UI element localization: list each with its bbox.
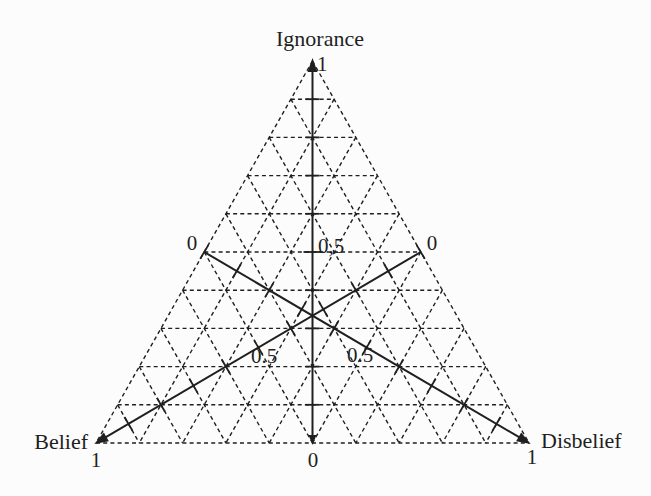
- belief-axis-label: Belief: [34, 429, 88, 454]
- opinion-triangle-figure: Ignorance 1 0,5 0 Belief 1 0.5 0 Disbeli…: [0, 0, 651, 496]
- belief-mid-tick-label: 0.5: [251, 344, 277, 368]
- disbelief-min-tick-label: 0: [187, 231, 198, 255]
- axes: [94, 58, 530, 445]
- belief-min-tick-label: 0: [427, 231, 438, 255]
- disbelief-max-tick-label: 1: [527, 445, 538, 469]
- disbelief-axis-label: Disbelief: [541, 428, 622, 453]
- disbelief-mid-tick-label: 0.5: [347, 343, 373, 367]
- ternary-plot-canvas: Ignorance 1 0,5 0 Belief 1 0.5 0 Disbeli…: [0, 0, 651, 496]
- ignorance-axis-label: Ignorance: [276, 26, 364, 51]
- ignorance-max-tick-label: 1: [317, 52, 328, 76]
- belief-max-tick-label: 1: [91, 448, 102, 472]
- ignorance-mid-tick-label: 0,5: [318, 234, 344, 258]
- ignorance-min-tick-label: 0: [308, 448, 319, 472]
